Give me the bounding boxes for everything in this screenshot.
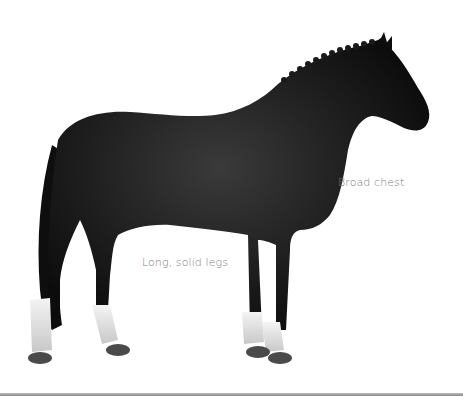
hoof <box>106 344 130 356</box>
sock-hind-right <box>92 305 118 344</box>
annotation-long-solid-legs: Long, solid legs <box>142 256 228 269</box>
hoof <box>246 346 270 358</box>
hoof <box>268 352 292 364</box>
annotation-broad-chest: Broad chest <box>338 176 404 189</box>
horse-image <box>0 0 463 397</box>
bottom-divider <box>0 393 463 396</box>
horse-illustration: Broad chest Long, solid legs <box>0 0 463 397</box>
sock-fore-left <box>242 312 264 344</box>
sock-hind-left <box>30 298 52 352</box>
hoof <box>28 352 52 364</box>
